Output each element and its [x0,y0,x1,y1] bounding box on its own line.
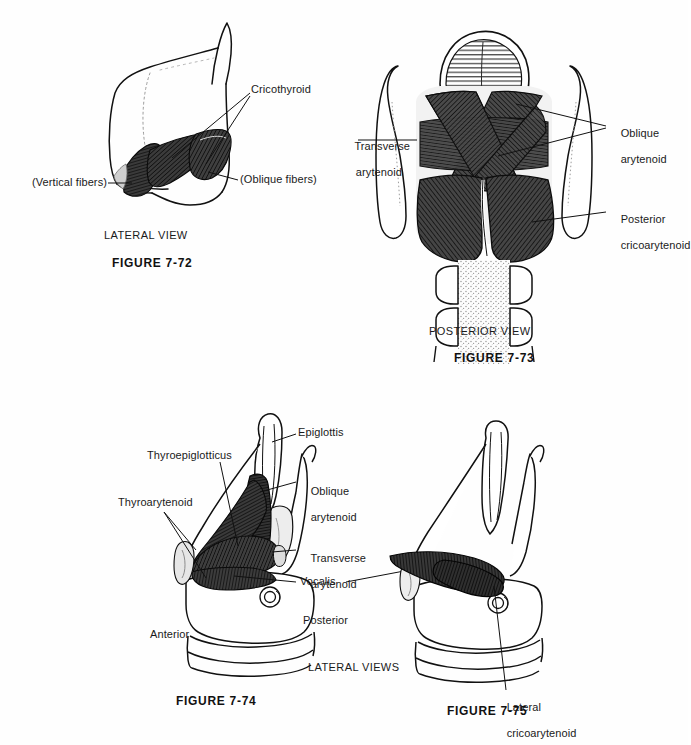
label-thyroepiglotticus: Thyroepiglotticus [147,449,232,462]
label-posterior: Posterior [303,614,348,627]
trachea [434,260,534,364]
label-oblique-fibers: (Oblique fibers) [240,173,317,186]
label-oblique-arytenoid-73: Oblique arytenoid [608,114,667,179]
label-transverse-arytenoid-73: Transverse arytenoid [342,127,402,192]
label-anterior: Anterior [150,628,189,641]
view-caption-lateral-views: LATERAL VIEWS [308,661,399,673]
cricothyroid-oblique-fiber-mass [189,130,231,180]
label-transverse-arytenoid-74: Transverse arytenoid [298,539,366,604]
figure-7-72: Cricothyroid (Vertical fibers) (Oblique … [0,0,350,290]
figure-7-75: Lateral cricoarytenoid FIGURE 7-75 [390,410,688,730]
figure-caption-7-72: FIGURE 7-72 [112,256,192,270]
label-epiglottis: Epiglottis [298,426,344,439]
label-oblique-arytenoid-74: Oblique arytenoid [298,472,357,537]
figure-7-75-illustration [390,410,688,730]
label-vertical-fibers: (Vertical fibers) [31,176,107,189]
posterior-cricoarytenoid-right [486,175,554,262]
transverse-arytenoid-74 [273,545,286,566]
posterior-cricoarytenoid-left [417,175,482,262]
label-vocalis: Vocalis [300,575,336,588]
view-caption-lateral: LATERAL VIEW [104,229,188,241]
figure-caption-7-75: FIGURE 7-75 [447,704,527,718]
figure-caption-7-74: FIGURE 7-74 [176,694,256,708]
figure-7-73: Transverse arytenoid Oblique arytenoid P… [340,10,688,370]
label-thyroarytenoid: Thyroarytenoid [118,496,193,509]
figure-7-74: Epiglottis Thyroepiglotticus Thyroaryten… [100,400,420,730]
epiglottis-lateral-75 [482,421,508,534]
label-cricothyroid: Cricothyroid [251,83,311,96]
label-posterior-cricoarytenoid: Posterior cricoarytenoid [608,200,691,265]
figure-7-72-illustration [0,0,350,290]
view-caption-posterior: POSTERIOR VIEW [429,325,531,337]
figure-caption-7-73: FIGURE 7-73 [454,351,534,365]
